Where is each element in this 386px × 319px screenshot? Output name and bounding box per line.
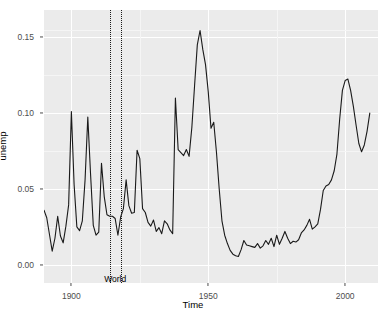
x-tick-mark — [345, 283, 346, 286]
x-tick-mark — [208, 283, 209, 286]
y-tick-mark — [40, 37, 43, 38]
x-tick-mark — [71, 283, 72, 286]
y-tick-label: 0.05 — [17, 184, 34, 194]
wwi-vline-1 — [110, 10, 111, 283]
y-tick-label: 0.15 — [17, 32, 34, 42]
y-tick-label: 0.10 — [17, 108, 34, 118]
x-axis-title: Time — [0, 299, 386, 310]
annotation-world-war-i: World War I — [104, 273, 126, 283]
y-axis-title: unemp — [0, 131, 8, 160]
chart-container: World War I 0.000.050.100.15 19001950200… — [0, 0, 386, 319]
wwi-vline-2 — [121, 10, 122, 283]
series-unemp-line — [44, 10, 378, 283]
y-tick-label: 0.00 — [17, 260, 34, 270]
y-tick-mark — [40, 113, 43, 114]
y-tick-mark — [40, 264, 43, 265]
plot-panel: World War I — [44, 10, 378, 283]
annotation-line-1: World — [104, 273, 126, 283]
y-tick-mark — [40, 188, 43, 189]
